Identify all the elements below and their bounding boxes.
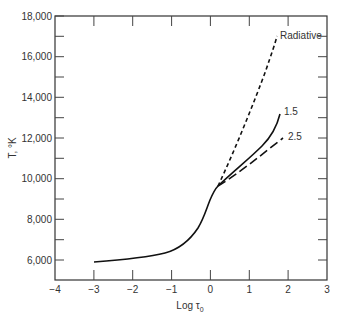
x-tick-label: −2: [127, 284, 139, 295]
curve-radiative: [218, 36, 277, 186]
y-tick-label: 14,000: [21, 92, 52, 103]
y-tick-label: 16,000: [21, 51, 52, 62]
temperature-vs-optical-depth-chart: 18,000 16,000 14,000 12,000 10,000 8,000…: [0, 0, 338, 314]
x-axis-tick-labels: −4 −3 −2 −1 0 1 2 3: [49, 284, 330, 295]
x-tick-label: 2: [285, 284, 291, 295]
x-axis-title-subscript: 0: [200, 306, 204, 313]
x-tick-label: −1: [166, 284, 178, 295]
curve-1-5: [218, 114, 280, 186]
series-label-1-5: 1.5: [284, 106, 298, 117]
x-axis-title-main: Log τ: [176, 300, 199, 311]
y-axis-title: T, °K: [7, 137, 18, 159]
y-tick-label: 8,000: [27, 214, 52, 225]
x-axis-ticks-top: [94, 16, 288, 26]
y-axis-tick-labels: 18,000 16,000 14,000 12,000 10,000 8,000…: [21, 11, 52, 266]
y-tick-label: 6,000: [27, 255, 52, 266]
y-axis-ticks: [55, 16, 64, 260]
x-tick-label: −4: [49, 284, 61, 295]
curve-2-5: [218, 138, 283, 186]
y-axis-ticks-right: [318, 36, 327, 260]
y-tick-label: 12,000: [21, 133, 52, 144]
x-axis-title: Log τ0: [176, 300, 203, 313]
series-label-radiative: Radiative: [280, 30, 322, 41]
x-tick-label: 3: [324, 284, 330, 295]
series-label-2-5: 2.5: [288, 131, 302, 142]
x-tick-label: 0: [208, 284, 214, 295]
curve-common: [94, 186, 218, 262]
y-tick-label: 18,000: [21, 11, 52, 22]
x-tick-label: 1: [247, 284, 253, 295]
x-tick-label: −3: [88, 284, 100, 295]
plot-frame: [55, 16, 327, 280]
y-tick-label: 10,000: [21, 173, 52, 184]
x-axis-ticks: [94, 270, 288, 280]
